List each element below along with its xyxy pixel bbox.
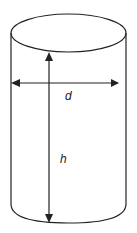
cylinder-shape — [11, 14, 126, 223]
cylinder-diagram: d h — [0, 0, 137, 233]
diameter-arrowhead-left — [11, 79, 20, 87]
cylinder-bottom-arc — [11, 204, 126, 223]
cylinder-top-ellipse — [11, 14, 126, 52]
height-label: h — [60, 152, 67, 166]
diameter-label: d — [65, 89, 72, 103]
height-arrowhead-top — [45, 52, 53, 61]
